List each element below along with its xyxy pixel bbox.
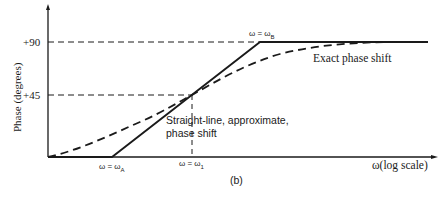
x-axis-label: ω(log scale) (372, 160, 428, 172)
omega-b-label: ω = ωB (249, 30, 275, 40)
y-tick-45: +45 (23, 90, 40, 101)
y-axis-label: Phase (degrees) (12, 63, 23, 132)
y-tick-90: +90 (23, 37, 40, 48)
approx-phase-annotation: Straight-line, approximate, phase shift (166, 114, 289, 140)
x-axis-arrow-icon (431, 155, 438, 159)
omega-1-label: ω = ω1 (179, 160, 204, 170)
y-axis-arrow-icon (46, 4, 50, 10)
exact-phase-annotation: Exact phase shift (313, 53, 392, 65)
figure-caption: (b) (230, 174, 243, 187)
omega-a-label: ω = ωA (99, 163, 125, 173)
